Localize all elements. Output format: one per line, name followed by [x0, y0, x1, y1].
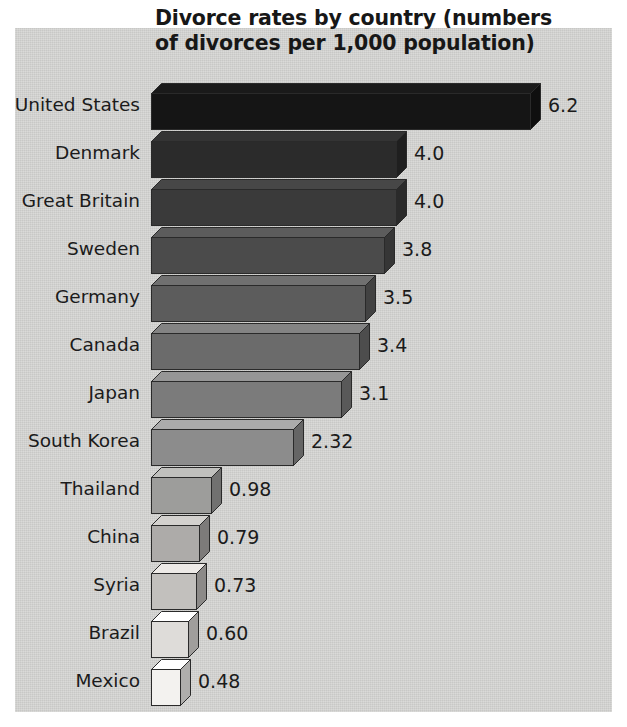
bar-3d — [151, 83, 542, 131]
bar-category-label: Great Britain — [0, 190, 140, 211]
bar-3d — [151, 563, 208, 611]
bar-value-label: 3.5 — [383, 286, 413, 308]
bar-value-label: 0.73 — [214, 574, 256, 596]
bar-3d — [151, 419, 305, 467]
bar-top-face — [152, 372, 352, 382]
bar-value-label: 3.8 — [402, 238, 432, 260]
bar-3d — [151, 275, 377, 323]
chart-title-line-2: of divorces per 1,000 population) — [155, 31, 575, 56]
bar-value-label: 0.98 — [229, 478, 271, 500]
bar-top-face — [152, 132, 407, 142]
bar-category-label: Sweden — [0, 238, 140, 259]
bar-shape — [151, 83, 542, 131]
bar-top-face — [152, 84, 541, 94]
bar-3d — [151, 467, 223, 515]
chart-plot-area: United States6.2Denmark4.0Great Britain4… — [0, 0, 597, 684]
bar-3d — [151, 227, 396, 275]
bar-value-label: 0.48 — [198, 670, 240, 692]
chart-title: Divorce rates by country (numbers of div… — [155, 6, 575, 56]
bar-shape — [151, 467, 223, 515]
bar-category-label: Japan — [0, 382, 140, 403]
chart-bar-row: Germany3.5 — [0, 272, 597, 320]
chart-page: Divorce rates by country (numbers of div… — [0, 0, 627, 727]
bar-category-label: South Korea — [0, 430, 140, 451]
chart-bar-row: United States6.2 — [0, 80, 597, 128]
chart-bar-row: China0.79 — [0, 512, 597, 560]
bar-shape — [151, 179, 408, 227]
bar-3d — [151, 611, 200, 659]
bar-category-label: United States — [0, 94, 140, 115]
bar-value-label: 4.0 — [414, 142, 444, 164]
bar-value-label: 4.0 — [414, 190, 444, 212]
bar-front-face — [152, 526, 200, 562]
bar-category-label: Germany — [0, 286, 140, 307]
bar-category-label: Canada — [0, 334, 140, 355]
chart-bar-row: South Korea2.32 — [0, 416, 597, 464]
bar-3d — [151, 371, 353, 419]
chart-bar-row: Sweden3.8 — [0, 224, 597, 272]
chart-bar-row: Syria0.73 — [0, 560, 597, 608]
bar-shape — [151, 275, 377, 323]
bar-shape — [151, 563, 208, 611]
bar-front-face — [152, 382, 342, 418]
bar-category-label: Mexico — [0, 670, 140, 691]
chart-bar-row: Thailand0.98 — [0, 464, 597, 512]
chart-bar-row: Great Britain4.0 — [0, 176, 597, 224]
bar-shape — [151, 611, 200, 659]
bar-shape — [151, 227, 396, 275]
bar-value-label: 2.32 — [311, 430, 353, 452]
chart-bar-row: Denmark4.0 — [0, 128, 597, 176]
chart-bar-row: Japan3.1 — [0, 368, 597, 416]
bar-top-face — [152, 276, 376, 286]
bar-category-label: Denmark — [0, 142, 140, 163]
bar-front-face — [152, 430, 294, 466]
chart-title-line-1: Divorce rates by country (numbers — [155, 6, 575, 31]
bar-value-label: 0.60 — [206, 622, 248, 644]
bar-front-face — [152, 142, 397, 178]
bar-front-face — [152, 334, 360, 370]
bar-front-face — [152, 238, 385, 274]
bar-category-label: Syria — [0, 574, 140, 595]
bar-3d — [151, 659, 192, 707]
bar-3d — [151, 131, 408, 179]
chart-bar-row: Mexico0.48 — [0, 656, 597, 704]
bar-front-face — [152, 478, 212, 514]
bar-front-face — [152, 670, 181, 706]
bar-top-face — [152, 180, 407, 190]
bar-3d — [151, 323, 371, 371]
chart-bar-row: Brazil0.60 — [0, 608, 597, 656]
bar-front-face — [152, 94, 531, 130]
bar-front-face — [152, 622, 189, 658]
bar-top-face — [152, 324, 370, 334]
bar-top-face — [152, 468, 222, 478]
bar-front-face — [152, 190, 397, 226]
bar-value-label: 6.2 — [548, 94, 578, 116]
bar-top-face — [152, 228, 395, 238]
bar-shape — [151, 659, 192, 707]
bar-3d — [151, 179, 408, 227]
bar-value-label: 0.79 — [217, 526, 259, 548]
bar-shape — [151, 419, 305, 467]
bar-category-label: China — [0, 526, 140, 547]
bar-value-label: 3.4 — [377, 334, 407, 356]
bar-shape — [151, 323, 371, 371]
chart-bar-row: Canada3.4 — [0, 320, 597, 368]
bar-3d — [151, 515, 211, 563]
bar-top-face — [152, 420, 304, 430]
bar-shape — [151, 131, 408, 179]
bar-shape — [151, 371, 353, 419]
bar-front-face — [152, 574, 197, 610]
bar-category-label: Thailand — [0, 478, 140, 499]
bar-shape — [151, 515, 211, 563]
bar-value-label: 3.1 — [359, 382, 389, 404]
bar-front-face — [152, 286, 366, 322]
bar-category-label: Brazil — [0, 622, 140, 643]
